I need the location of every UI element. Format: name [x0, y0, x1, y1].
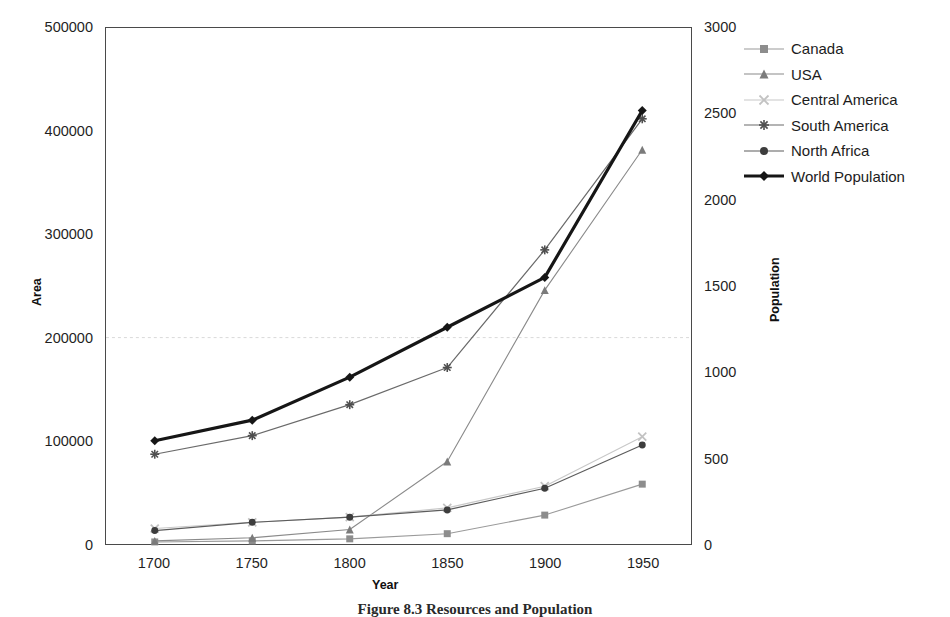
data-point-square [639, 481, 646, 488]
legend: CanadaUSACentral AmericaSouth AmericaNor… [742, 36, 947, 189]
data-point-triangle [541, 286, 549, 294]
legend-label: Canada [791, 41, 844, 56]
legend-item-north-africa[interactable]: North Africa [742, 138, 947, 164]
x-tick: 1750 [236, 555, 268, 571]
diamond-marker-icon [742, 166, 786, 186]
data-point-circle [444, 506, 451, 513]
y-tick-left: 0 [0, 537, 93, 553]
legend-item-world-population[interactable]: World Population [742, 164, 947, 190]
data-point-diamond [759, 171, 769, 181]
data-point-diamond [248, 416, 257, 425]
y-tick-left: 300000 [0, 226, 93, 242]
data-point-circle [346, 514, 353, 521]
series-south-america [150, 114, 646, 458]
y-tick-left: 200000 [0, 330, 93, 346]
series-usa [151, 146, 646, 545]
x-tick: 1950 [627, 555, 659, 571]
legend-label: World Population [791, 169, 905, 184]
y-tick-left: 500000 [0, 19, 93, 35]
legend-item-south-america[interactable]: South America [742, 113, 947, 139]
legend-label: USA [791, 67, 822, 82]
legend-label: North Africa [791, 143, 869, 158]
data-point-asterisk [150, 450, 159, 459]
legend-item-canada[interactable]: Canada [742, 36, 947, 62]
y-axis-right-title: Population [768, 257, 782, 322]
data-point-square [346, 535, 353, 542]
data-point-circle [249, 519, 256, 526]
data-point-diamond [150, 436, 159, 445]
series-north-africa [151, 441, 645, 534]
data-point-triangle [638, 146, 646, 154]
y-tick-right: 2500 [704, 105, 736, 121]
y-tick-left: 100000 [0, 433, 93, 449]
data-point-square [444, 530, 451, 537]
data-point-circle [760, 147, 768, 155]
y-axis-left-title: Area [30, 278, 44, 306]
plot-area [105, 27, 692, 545]
x-axis-title: Year [372, 578, 398, 592]
series-world-population [150, 106, 646, 445]
data-point-asterisk [248, 431, 257, 440]
figure-container: 0100000200000300000400000500000 05001000… [0, 0, 950, 617]
legend-label: Central America [791, 92, 898, 107]
data-point-square [760, 45, 768, 53]
data-point-triangle [443, 457, 451, 465]
y-tick-right: 0 [704, 537, 712, 553]
data-point-circle [541, 485, 548, 492]
series-layer [106, 28, 691, 544]
circle-marker-icon [742, 141, 786, 161]
series-central-america [151, 433, 646, 533]
data-point-asterisk [345, 400, 354, 409]
y-tick-right: 3000 [704, 19, 736, 35]
square-marker-icon [742, 39, 786, 59]
x-tick: 1700 [138, 555, 170, 571]
data-point-asterisk [759, 120, 769, 130]
data-point-circle [639, 441, 646, 448]
asterisk-marker-icon [742, 115, 786, 135]
y-tick-right: 2000 [704, 192, 736, 208]
x-tick: 1850 [431, 555, 463, 571]
x-tick: 1800 [333, 555, 365, 571]
data-point-square [541, 512, 548, 519]
y-tick-right: 1500 [704, 278, 736, 294]
data-point-circle [151, 527, 158, 534]
y-tick-right: 1000 [704, 364, 736, 380]
data-point-cross [638, 433, 646, 441]
y-tick-left: 400000 [0, 123, 93, 139]
y-tick-right: 500 [704, 451, 728, 467]
cross-marker-icon [742, 90, 786, 110]
data-point-asterisk [540, 245, 549, 254]
x-tick: 1900 [529, 555, 561, 571]
legend-item-usa[interactable]: USA [742, 62, 947, 88]
legend-label: South America [791, 118, 889, 133]
triangle-marker-icon [742, 64, 786, 84]
legend-item-central-america[interactable]: Central America [742, 87, 947, 113]
data-point-asterisk [443, 363, 452, 372]
figure-caption: Figure 8.3 Resources and Population [0, 601, 950, 617]
